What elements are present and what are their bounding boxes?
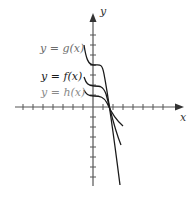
y-axis-arrow-icon [90,13,97,22]
curve-f [84,77,121,145]
label-f: y = f(x) [40,70,82,83]
y-axis [90,13,97,186]
label-g: y = g(x) [39,42,84,55]
label-h: y = h(x) [40,86,85,99]
x-axis [15,104,184,111]
curve-g [84,45,120,185]
x-axis-arrow-icon [175,104,184,111]
y-axis-label: y [99,5,107,18]
x-axis-label: x [180,111,187,124]
graph-canvas: y = g(x) y = f(x) y = h(x) x y [0,0,196,198]
